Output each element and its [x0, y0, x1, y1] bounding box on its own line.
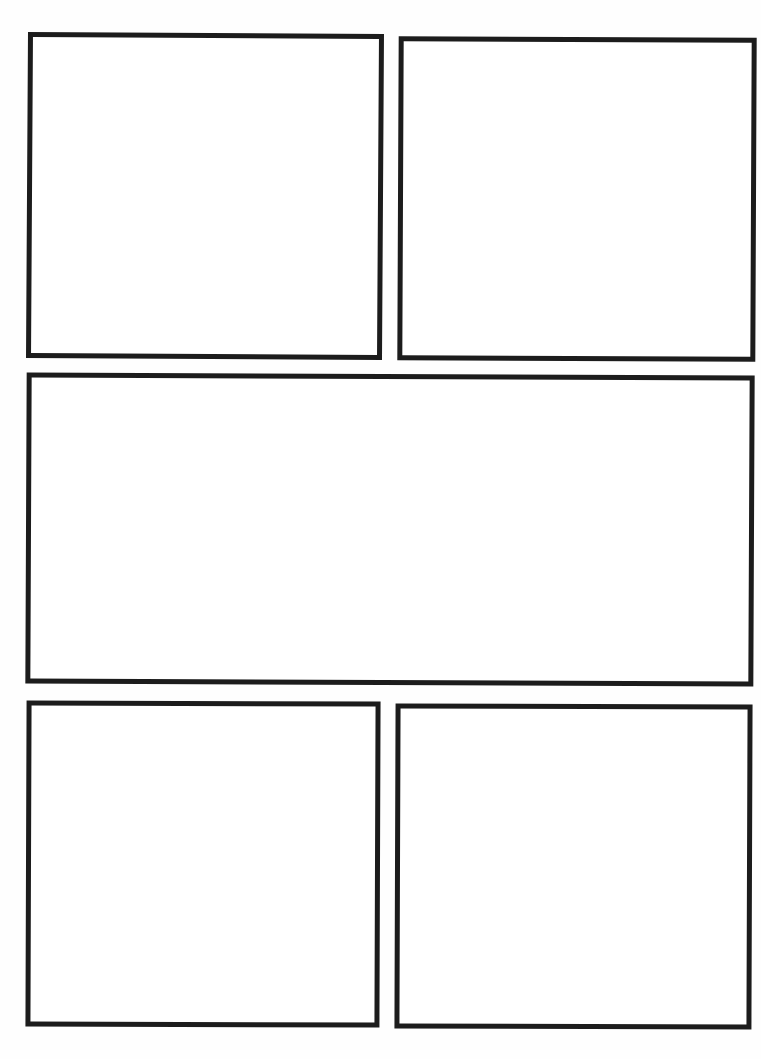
- panel-1-top-left: [26, 32, 384, 360]
- panel-5-bottom-right: [394, 703, 752, 1029]
- comic-page: [0, 0, 761, 1059]
- panel-4-bottom-left: [25, 700, 380, 1027]
- panel-2-top-right: [397, 36, 756, 362]
- panel-3-middle-wide: [25, 372, 754, 686]
